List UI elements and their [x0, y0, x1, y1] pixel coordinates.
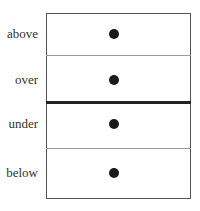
dot-marker-below [109, 168, 119, 178]
thin-divider-2 [46, 148, 191, 149]
row-label-over: over [15, 73, 38, 87]
thin-divider-1 [46, 55, 191, 56]
row-label-under: under [8, 117, 38, 131]
thick-divider [46, 101, 191, 104]
row-label-above: above [7, 27, 38, 41]
dot-marker-above [109, 29, 119, 39]
dot-marker-over [109, 75, 119, 85]
row-label-below: below [6, 166, 38, 180]
dot-marker-under [109, 119, 119, 129]
